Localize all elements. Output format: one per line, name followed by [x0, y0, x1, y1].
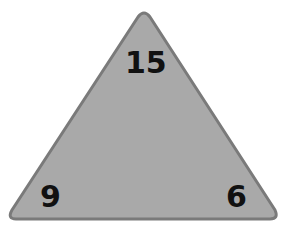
top-number: 15: [125, 48, 167, 78]
bottom-right-number: 6: [226, 182, 247, 212]
bottom-left-number: 9: [40, 182, 61, 212]
